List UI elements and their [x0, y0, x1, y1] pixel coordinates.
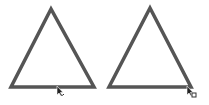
triangle-right[interactable]	[109, 8, 191, 87]
triangle-left[interactable]	[11, 9, 94, 87]
canvas[interactable]	[0, 0, 209, 105]
